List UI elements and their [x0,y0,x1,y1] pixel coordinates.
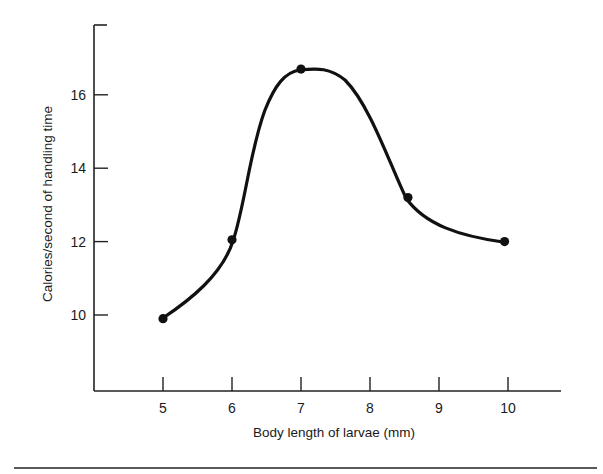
y-axis [94,25,107,391]
y-tick-label: 16 [70,87,86,103]
chart: 10121416 5678910 Body length of larvae (… [0,0,603,474]
y-tick-label: 10 [70,307,86,323]
y-ticks: 10121416 [70,87,108,323]
y-tick-label: 12 [70,234,86,250]
x-tick-label: 7 [297,400,305,416]
y-axis-title: Calories/second of handling time [40,106,55,302]
data-curve [163,69,503,318]
x-axis-title: Body length of larvae (mm) [253,425,415,440]
y-tick-label: 14 [70,160,86,176]
x-ticks: 5678910 [159,377,516,416]
x-tick-label: 5 [159,400,167,416]
data-point-marker [296,65,305,74]
data-point-marker [500,237,509,246]
x-tick-label: 9 [435,400,443,416]
x-tick-label: 6 [228,400,236,416]
x-tick-label: 8 [366,400,374,416]
data-point-marker [403,193,412,202]
x-tick-label: 10 [500,400,516,416]
data-point-marker [158,314,167,323]
data-points [158,65,509,324]
data-point-marker [227,235,236,244]
